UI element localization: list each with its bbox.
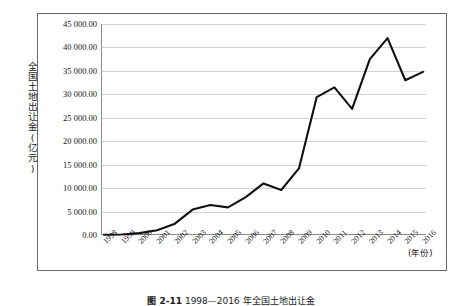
line-series-svg bbox=[101, 24, 426, 235]
figure-caption-number: 图 2-11 bbox=[147, 296, 182, 306]
y-tick-label: 30 000.00 bbox=[27, 90, 97, 99]
figure-caption: 图 2-11 1998—2016 年全国土地出让金 bbox=[0, 296, 462, 306]
plot-area bbox=[101, 24, 426, 235]
y-tick-label: 15 000.00 bbox=[27, 161, 97, 170]
x-axis-unit-label: (年份) bbox=[408, 249, 433, 258]
y-tick-label: 20 000.00 bbox=[27, 137, 97, 146]
y-tick-label: 5 000.00 bbox=[27, 208, 97, 217]
x-axis-tick-labels: 1998199920002001200220032004200520062007… bbox=[101, 238, 441, 270]
y-tick-label: 35 000.00 bbox=[27, 67, 97, 76]
y-tick-label: 0.00 bbox=[27, 231, 97, 240]
figure-container: 全国土地出让金(亿元) 45 000.0040 000.0035 000.003… bbox=[0, 0, 462, 306]
series-line bbox=[104, 38, 423, 235]
figure-caption-text: 1998—2016 年全国土地出让金 bbox=[185, 296, 315, 306]
y-tick-label: 40 000.00 bbox=[27, 43, 97, 52]
y-tick-label: 45 000.00 bbox=[27, 20, 97, 29]
y-tick-label: 10 000.00 bbox=[27, 184, 97, 193]
y-tick-label: 25 000.00 bbox=[27, 114, 97, 123]
y-axis-tick-labels: 45 000.0040 000.0035 000.0030 000.0025 0… bbox=[25, 24, 97, 235]
